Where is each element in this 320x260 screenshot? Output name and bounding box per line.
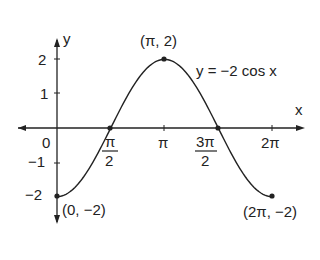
y-axis-up-arrow-icon [54,38,60,47]
x-tick-pi: π [158,134,168,151]
point-end [269,193,274,198]
y-tick-2: 2 [38,51,46,68]
x-axis-right-arrow-icon [296,125,305,131]
cosine-graph: y x 2 1 0 −1 −2 π 2 π 3π 2 2π (π, 2) y =… [0,0,320,260]
x-tick-pi-half-den: 2 [105,152,113,169]
x-axis-label: x [295,101,303,118]
y-tick-minus2: −2 [25,186,42,203]
peak-annotation: (π, 2) [140,32,177,49]
x-tick-3pi-half-den: 2 [201,152,209,169]
origin-label: 0 [42,134,50,151]
equation-label: y = −2 cos x [196,62,277,79]
y-axis-down-arrow-icon [54,215,60,224]
point-peak [161,56,166,61]
start-annotation: (0, −2) [62,201,106,218]
y-axis-label: y [63,30,71,47]
x-tick-3pi-half-num: 3π [196,133,215,150]
x-axis-left-arrow-icon [18,125,26,131]
end-annotation: (2π, −2) [243,203,297,220]
y-tick-minus1: −1 [28,153,45,170]
point-start [54,193,59,198]
x-tick-2pi: 2π [261,134,280,151]
y-tick-1: 1 [40,85,48,102]
point-zero-2 [215,125,220,130]
x-tick-pi-half-num: π [105,133,115,150]
point-zero-1 [107,125,112,130]
